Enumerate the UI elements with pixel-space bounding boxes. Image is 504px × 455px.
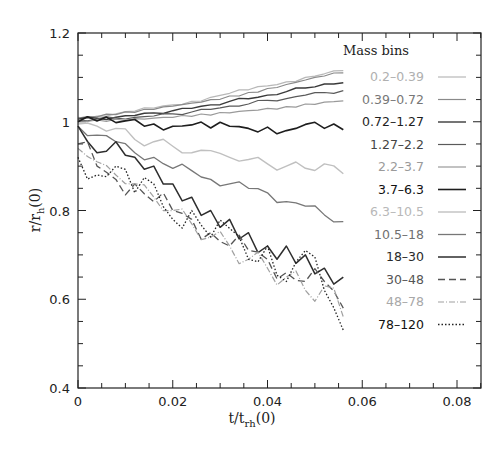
- chart: 00.020.040.060.080.40.60.811.2 t/trh(0) …: [0, 0, 504, 455]
- x-tick-label: 0.02: [158, 394, 187, 409]
- y-tick-label: 1: [62, 115, 70, 130]
- series-line: [78, 91, 343, 121]
- legend-label: 0.39–0.72: [362, 92, 424, 107]
- legend-label: 78–120: [378, 317, 424, 332]
- legend-label: 0.72–1.27: [362, 114, 424, 129]
- y-tick-label: 0.6: [49, 292, 70, 307]
- x-tick-label: 0.08: [443, 394, 472, 409]
- legend: Mass bins 0.2–0.390.39–0.720.72–1.271.27…: [343, 43, 466, 332]
- y-tick-label: 1.2: [49, 26, 70, 41]
- legend-title: Mass bins: [343, 43, 409, 58]
- x-axis-title: t/trh(0): [228, 410, 275, 429]
- legend-label: 10.5–18: [374, 227, 424, 242]
- legend-label: 48–78: [386, 294, 424, 309]
- series-line: [78, 71, 343, 119]
- legend-label: 3.7–6.3: [378, 182, 424, 197]
- y-axis-title: r/rh(0): [27, 188, 46, 232]
- y-tick-label: 0.8: [49, 204, 70, 219]
- legend-label: 1.27–2.2: [370, 137, 424, 152]
- legend-label: 18–30: [386, 249, 424, 264]
- series-line: [78, 148, 343, 317]
- legend-label: 30–48: [386, 272, 424, 287]
- legend-label: 6.3–10.5: [370, 204, 424, 219]
- x-tick-label: 0.06: [348, 394, 377, 409]
- series-line: [78, 126, 343, 222]
- data-series: [78, 71, 343, 331]
- x-tick-label: 0.04: [253, 394, 282, 409]
- legend-label: 2.2–3.7: [378, 159, 424, 174]
- x-tick-label: 0: [74, 394, 82, 409]
- y-tick-label: 0.4: [49, 381, 70, 396]
- legend-label: 0.2–0.39: [370, 69, 424, 84]
- series-line: [78, 157, 343, 330]
